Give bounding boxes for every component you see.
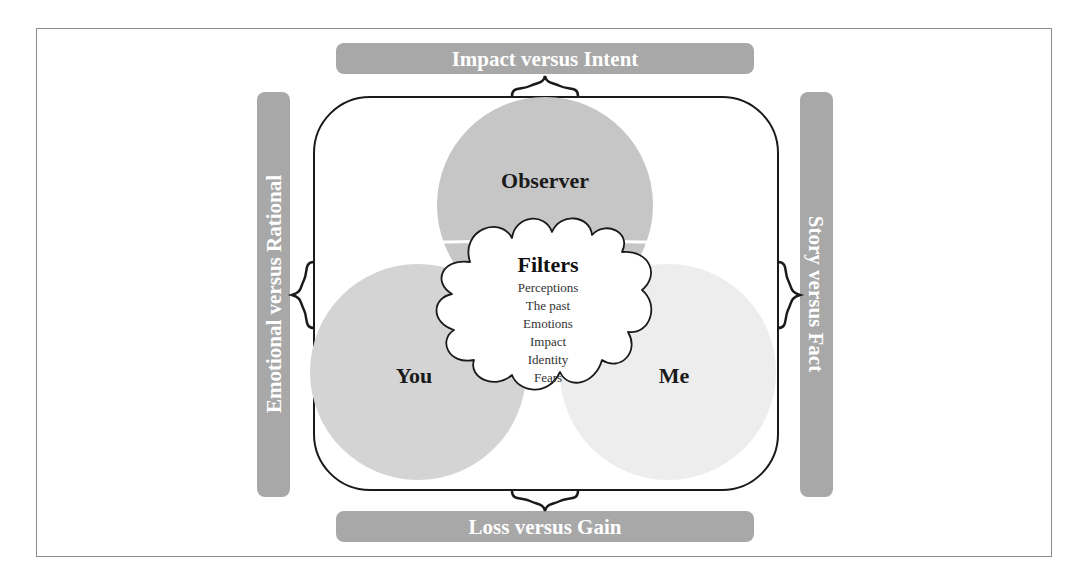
filters-item: Impact: [530, 334, 566, 349]
banner-top-label: Impact versus Intent: [452, 47, 639, 71]
you-label: You: [396, 363, 433, 388]
filters-item: Perceptions: [518, 280, 579, 295]
brace-top-icon: [512, 76, 578, 96]
banner-top: Impact versus Intent: [336, 43, 754, 74]
filters-item: Fears: [534, 370, 562, 385]
brace-bottom-icon: [512, 491, 578, 511]
banner-left: Emotional versus Rational: [257, 92, 290, 497]
banner-bottom-label: Loss versus Gain: [469, 515, 622, 539]
banner-bottom: Loss versus Gain: [336, 511, 754, 542]
filters-title: Filters: [517, 252, 579, 277]
filters-item: The past: [526, 298, 571, 313]
banner-right-label: Story versus Fact: [804, 216, 828, 372]
brace-right-icon: [778, 262, 800, 328]
banner-left-label: Emotional versus Rational: [262, 175, 286, 413]
filters-item: Identity: [528, 352, 569, 367]
brace-left-icon: [292, 262, 314, 328]
me-label: Me: [659, 363, 690, 388]
observer-label: Observer: [501, 168, 589, 193]
filters-item: Emotions: [523, 316, 573, 331]
conflict-diagram: Impact versus Intent Loss versus Gain Em…: [0, 0, 1083, 587]
banner-right: Story versus Fact: [800, 92, 833, 497]
